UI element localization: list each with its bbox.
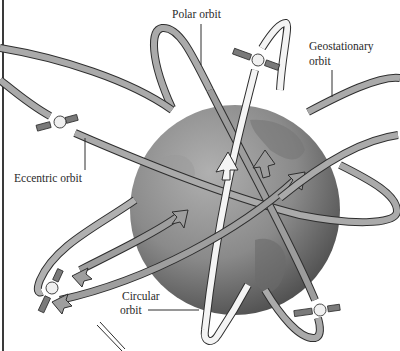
orbits-back xyxy=(0,23,400,116)
circular-orbit-label-line2: orbit xyxy=(120,304,142,317)
circular-orbit-label-line1: Circular xyxy=(122,290,160,303)
eccentric-orbit-label: Eccentric orbit xyxy=(14,172,82,185)
geostationary-orbit-label-line2: orbit xyxy=(309,55,331,68)
geostationary-orbit-label-line1: Geostationary xyxy=(309,40,374,53)
orbit-diagram: Polar orbit Geostationary orbit Eccentri… xyxy=(0,0,400,351)
satellite-bottom-right xyxy=(293,301,340,319)
satellite-top xyxy=(232,45,281,73)
polar-orbit-label: Polar orbit xyxy=(172,8,221,21)
